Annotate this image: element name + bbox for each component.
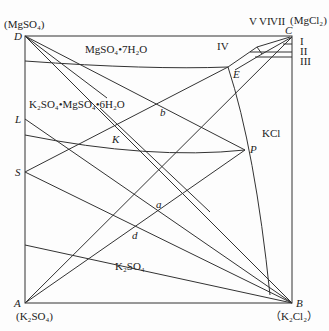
region-schoenite: K₂SO₄•MgSO₄•6H₂O xyxy=(29,98,125,110)
point-E: E xyxy=(232,68,240,80)
point-L: L xyxy=(14,113,21,125)
compound-mgcl2: (MgCl₂) xyxy=(290,14,327,27)
point-a: a xyxy=(156,198,162,210)
point-P: P xyxy=(249,143,257,155)
compound-k2so4: (K₂SO₄) xyxy=(16,310,53,323)
region-V: V xyxy=(249,15,257,27)
point-S: S xyxy=(15,166,21,178)
compound-mgso4: (MgSO₄) xyxy=(4,18,45,31)
point-d: d xyxy=(132,229,138,241)
compound-k2cl2: （K₂Cl₂） xyxy=(270,310,318,322)
region-mgso4-7h2o: MgSO₄•7H₂O xyxy=(85,43,147,55)
boundary-E-P xyxy=(228,67,270,295)
point-A: A xyxy=(13,297,21,309)
point-C: C xyxy=(285,24,293,36)
region-k2so4: K₂SO₄ xyxy=(115,260,145,272)
region-VII: VII xyxy=(270,15,286,27)
phase-diagram: (MgSO₄) D (MgCl₂) C A (K₂SO₄) B （K₂Cl₂） … xyxy=(0,0,329,331)
point-B: B xyxy=(296,297,303,309)
region-III: III xyxy=(300,55,311,67)
boundary-L-P xyxy=(25,135,245,153)
point-b: b xyxy=(160,106,166,118)
point-D: D xyxy=(13,30,22,42)
region-IV: IV xyxy=(217,40,229,52)
region-kcl: KCl xyxy=(262,127,280,139)
point-K: K xyxy=(111,133,120,145)
diagram-canvas: (MgSO₄) D (MgCl₂) C A (K₂SO₄) B （K₂Cl₂） … xyxy=(0,0,329,331)
